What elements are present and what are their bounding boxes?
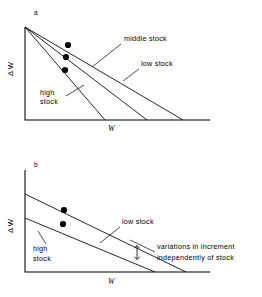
figure-container: a middle stock low stock high stock W Δ …: [0, 0, 262, 297]
panel-b-annotation-line1: variations in increment: [157, 242, 235, 251]
panel-b-leader-low-stock: [100, 227, 120, 243]
panel-a-marker-high-stock: [62, 67, 68, 73]
panel-b-letter: b: [34, 161, 38, 168]
panel-b-label-low-stock: low stock: [122, 217, 154, 226]
panel-a-leader-middle-stock: [92, 44, 121, 67]
panel-a-label-low-stock: low stock: [141, 59, 173, 68]
panel-a: a middle stock low stock high stock W Δ …: [6, 9, 210, 133]
panel-a-x-axis-label: W: [108, 124, 116, 133]
panel-a-label-high-stock-line1: high: [40, 88, 55, 97]
panel-a-leader-low-stock: [123, 69, 139, 81]
panel-b-x-axis-label: W: [108, 277, 116, 286]
panel-a-letter: a: [34, 9, 38, 16]
panel-a-marker-middle-stock: [63, 54, 69, 60]
panel-a-label-middle-stock: middle stock: [124, 34, 167, 43]
panel-b-label-high-stock-line2: stock: [33, 254, 51, 263]
panel-b-annotation-line2: independently of stock: [157, 253, 234, 262]
panel-b: b low stock high stock variatio: [6, 161, 235, 286]
panel-a-y-axis-label: Δ W: [6, 61, 15, 76]
panel-a-line-high-stock: [25, 27, 105, 120]
panel-a-marker-low-stock: [65, 42, 71, 48]
panel-b-label-high-stock-line1: high: [33, 244, 48, 253]
panel-b-y-axis-label: Δ W: [6, 218, 15, 233]
panel-b-gap-arrow: [134, 245, 139, 259]
panel-b-marker-high-stock: [60, 221, 66, 227]
panel-a-leader-high-stock: [66, 85, 84, 96]
panel-b-leader-variations: [130, 240, 155, 252]
panel-b-marker-low-stock: [61, 207, 67, 213]
panel-a-axes: [25, 27, 210, 120]
panel-a-label-high-stock-line2: stock: [40, 97, 58, 106]
panel-b-leader-high-stock: [38, 231, 46, 244]
figure-svg: a middle stock low stock high stock W Δ …: [0, 0, 262, 297]
